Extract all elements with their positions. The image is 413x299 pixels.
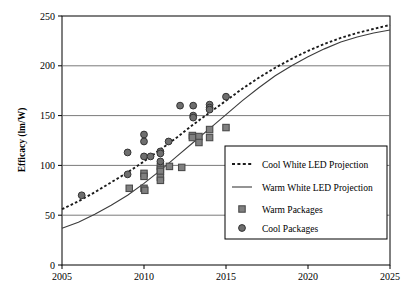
warm-package-marker: [141, 173, 147, 179]
x-tick-label: 2025: [380, 271, 400, 282]
warm-package-marker: [179, 164, 185, 170]
legend-entry-label: Cool Packages: [262, 224, 319, 234]
warm-package-marker: [142, 187, 148, 193]
cool-package-marker: [78, 192, 85, 199]
cool-package-marker: [124, 149, 131, 156]
cool-package-marker: [223, 93, 230, 100]
y-tick-label: 200: [40, 60, 55, 71]
y-tick-label: 0: [50, 260, 55, 271]
y-tick-label: 150: [40, 110, 55, 121]
x-tick-label: 2005: [52, 271, 72, 282]
cool-package-marker: [141, 153, 148, 160]
legend-entry-label: Cool White LED Projection: [262, 160, 368, 170]
cool-package-marker: [124, 171, 131, 178]
x-tick-label: 2015: [216, 271, 236, 282]
cool-package-marker: [157, 158, 164, 165]
circle-marker-swatch-icon: [239, 225, 246, 232]
warm-package-marker: [206, 134, 212, 140]
cool-package-marker: [141, 131, 148, 138]
warm-package-marker: [166, 163, 172, 169]
cool-package-marker: [157, 150, 164, 157]
cool-package-marker: [177, 102, 184, 109]
square-marker-swatch-icon: [239, 206, 245, 212]
legend-entry-label: Warm Packages: [262, 205, 323, 215]
y-tick-label: 50: [45, 210, 55, 221]
efficacy-projection-chart: 050100150200250 20052010201520202025 Eff…: [0, 0, 413, 299]
warm-package-marker: [206, 126, 212, 132]
cool-package-marker: [190, 102, 197, 109]
warm-package-marker: [223, 124, 229, 130]
y-tick-label: 250: [40, 11, 55, 22]
warm-package-marker: [157, 177, 163, 183]
cool-package-marker: [190, 114, 197, 121]
chart-legend: Cool White LED ProjectionWarm White LED …: [225, 146, 387, 239]
y-axis-title: Efficacy (lm/W): [17, 108, 28, 173]
cool-package-marker: [141, 138, 148, 145]
cool-package-marker: [147, 153, 154, 160]
x-tick-label: 2010: [134, 271, 154, 282]
cool-package-marker: [206, 106, 213, 113]
warm-package-marker: [196, 139, 202, 145]
y-tick-label: 100: [40, 160, 55, 171]
legend-entry-label: Warm White LED Projection: [262, 183, 373, 193]
cool-package-marker: [165, 138, 172, 145]
chart-container: 050100150200250 20052010201520202025 Eff…: [0, 0, 413, 299]
warm-package-marker: [126, 185, 132, 191]
x-tick-label: 2020: [298, 271, 318, 282]
warm-package-marker: [189, 134, 195, 140]
